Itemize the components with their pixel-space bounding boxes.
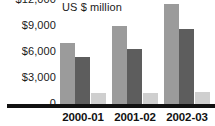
x-axis-tick-label: 2001-02	[108, 110, 162, 124]
x-axis-tick-label: 2000-01	[56, 110, 110, 124]
bar	[195, 92, 210, 104]
bar	[143, 93, 158, 104]
bar	[179, 29, 194, 104]
x-axis-baseline	[7, 104, 215, 108]
bar	[60, 43, 75, 104]
y-axis-tick-label: $9,000	[22, 20, 56, 31]
y-axis-tick-label: $3,000	[22, 72, 56, 83]
bar-group	[112, 0, 158, 104]
bar	[75, 57, 90, 104]
bar-group	[164, 0, 210, 104]
bar-group	[60, 0, 106, 104]
y-axis-tick-label: $6,000	[22, 46, 56, 57]
x-axis-tick-label: 2002-03	[160, 110, 214, 124]
plot-area	[58, 0, 215, 104]
bar	[164, 4, 179, 104]
bar	[127, 49, 142, 104]
bar	[91, 93, 106, 104]
x-axis: 2000-012001-022002-03	[58, 110, 215, 126]
y-axis-tick-label: $12,000	[16, 0, 56, 5]
bar-chart-figure: US $ million $12,000$9,000$6,000$3,0000 …	[0, 0, 215, 126]
bar	[112, 26, 127, 104]
y-axis: $12,000$9,000$6,000$3,0000	[0, 0, 58, 106]
